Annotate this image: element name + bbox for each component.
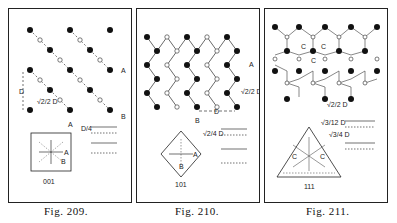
svg-text:C: C	[311, 57, 316, 64]
svg-text:A: A	[193, 151, 198, 158]
svg-text:A: A	[121, 67, 126, 74]
figure-211-panel: C C C √2/2 D √3/12 D √3/4 D C C 111	[264, 8, 388, 203]
svg-text:√2/4 D: √2/4 D	[203, 130, 224, 137]
fig210-lattice-diagram: A √2/2 D D B √2/4 D A B 101	[137, 9, 259, 202]
svg-text:√2/2 D: √2/2 D	[37, 98, 58, 105]
caption-prefix: Fig.	[306, 205, 325, 217]
face-label-101: 101	[175, 181, 187, 188]
fig209-lattice-diagram: D A B A √2/2 D D/4 A B 001	[9, 9, 131, 202]
svg-text:B: B	[121, 113, 126, 120]
caption-number: 211.	[329, 205, 350, 217]
svg-text:B: B	[61, 158, 66, 165]
face-label-001: 001	[43, 178, 55, 185]
face-label-111: 111	[304, 183, 315, 190]
caption-prefix: Fig.	[175, 205, 194, 217]
caption-fig-210: Fig. 210.	[175, 205, 219, 217]
svg-text:√3/12 D: √3/12 D	[321, 119, 345, 126]
fig211-lattice-diagram: C C C √2/2 D √3/12 D √3/4 D C C 111	[265, 9, 387, 202]
svg-text:A: A	[249, 61, 254, 68]
svg-text:B: B	[179, 163, 184, 170]
svg-text:A: A	[68, 121, 73, 128]
caption-fig-209: Fig. 209.	[44, 205, 88, 217]
svg-text:A: A	[64, 149, 69, 156]
svg-text:√2/2 D: √2/2 D	[241, 88, 259, 95]
svg-text:D: D	[19, 88, 24, 95]
svg-text:C: C	[320, 153, 325, 160]
svg-text:D/4: D/4	[81, 125, 92, 132]
svg-text:C: C	[292, 153, 297, 160]
svg-text:B: B	[195, 117, 200, 124]
caption-prefix: Fig.	[44, 205, 63, 217]
caption-number: 210.	[198, 205, 219, 217]
figure-210-panel: A √2/2 D D B √2/4 D A B 101	[136, 8, 260, 203]
figure-209-panel: D A B A √2/2 D D/4 A B 001	[8, 8, 132, 203]
caption-number: 209.	[67, 205, 88, 217]
svg-text:C: C	[301, 43, 306, 50]
caption-fig-211: Fig. 211.	[306, 205, 350, 217]
svg-text:√2/2 D: √2/2 D	[327, 101, 348, 108]
svg-text:√3/4 D: √3/4 D	[329, 131, 350, 138]
svg-text:D: D	[214, 108, 219, 115]
svg-text:C: C	[321, 43, 326, 50]
